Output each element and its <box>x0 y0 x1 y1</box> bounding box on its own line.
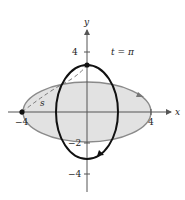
y-axis-label: y <box>83 17 90 27</box>
parameter-label: t = π <box>111 47 135 57</box>
x-tick-label-neg4: −4 <box>15 117 29 127</box>
y-tick-label-neg4: −4 <box>68 169 82 179</box>
y-tick-label-neg2: −2 <box>68 138 81 148</box>
x-tick-label-4: 4 <box>148 117 154 127</box>
y-tick-label-4: 4 <box>72 47 78 57</box>
arc-length-label: s <box>40 98 45 108</box>
point-on-gray-ellipse <box>19 109 24 114</box>
point-on-black-ellipse <box>84 62 89 67</box>
parametric-diagram: y x 4 −2 −4 −4 4 t = π s <box>0 0 185 200</box>
x-axis-label: x <box>175 107 180 117</box>
